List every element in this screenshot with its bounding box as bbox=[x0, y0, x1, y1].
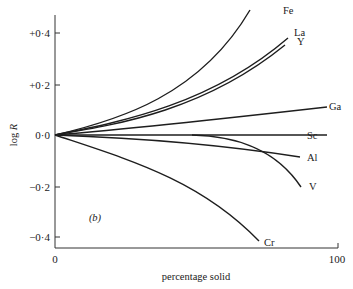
series-label-sc: Sc bbox=[307, 130, 318, 141]
series-label-v: V bbox=[309, 181, 317, 192]
curve-y bbox=[55, 45, 285, 135]
y-axis-label-log: log bbox=[8, 130, 19, 146]
series-label-ga: Ga bbox=[329, 101, 342, 112]
curve-cr bbox=[55, 135, 259, 241]
x-axis-label: percentage solid bbox=[162, 271, 231, 282]
series-label-cr: Cr bbox=[264, 237, 275, 248]
chart-canvas: +0·4 +0·2 0·0 −0·2 −0·4 0 100 percentage… bbox=[0, 0, 353, 289]
curve-ga bbox=[55, 107, 327, 135]
curve-v bbox=[192, 135, 301, 187]
x-tick-label: 0 bbox=[52, 253, 58, 265]
y-axis-label: log R bbox=[8, 123, 19, 146]
y-tick-label: +0·2 bbox=[29, 79, 50, 91]
y-axis-label-r: R bbox=[8, 123, 19, 131]
curve-al bbox=[55, 135, 300, 157]
y-tick-label: −0·4 bbox=[29, 231, 50, 243]
series-label-y: Y bbox=[297, 36, 305, 47]
series-label-al: Al bbox=[307, 152, 318, 163]
y-tick-label: −0·2 bbox=[29, 181, 50, 193]
curve-la bbox=[55, 38, 288, 135]
series-label-fe: Fe bbox=[283, 5, 294, 16]
y-tick-label: +0·4 bbox=[29, 27, 50, 39]
panel-label: (b) bbox=[89, 212, 102, 224]
x-tick-label: 100 bbox=[329, 253, 346, 265]
curve-fe bbox=[55, 10, 250, 135]
y-tick-label: 0·0 bbox=[35, 129, 50, 141]
